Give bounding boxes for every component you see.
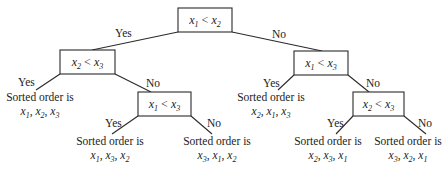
edge-right-yes	[278, 75, 294, 90]
decision-node-left: x2 < x3	[60, 50, 115, 74]
leaf-title: Sorted order is	[237, 91, 305, 103]
leaf-order: x1, x2, x3	[20, 105, 60, 120]
label-right-no: No	[366, 77, 380, 89]
decision-node-left-no: x1 < x3	[138, 92, 191, 116]
label-right-yes: Yes	[263, 77, 280, 89]
leaf-node: Sorted order is x2, x3, x1	[294, 135, 362, 164]
label-root-yes: Yes	[115, 27, 132, 39]
label-root-no: No	[272, 28, 286, 40]
node-left-label: x2 < x3	[71, 55, 103, 71]
leaf-title: Sorted order is	[76, 135, 144, 147]
leaf-title: Sorted order is	[6, 91, 74, 103]
node-root-label: x1 < x2	[188, 13, 220, 29]
decision-node-root: x1 < x2	[178, 8, 232, 32]
decision-node-right: x1 < x3	[294, 51, 348, 75]
leaf-order: x1, x3, x2	[90, 149, 130, 164]
label-left-yes: Yes	[18, 76, 35, 88]
label-leftno-no: No	[207, 117, 221, 129]
leaf-node: Sorted order is x1, x2, x3	[6, 91, 74, 120]
label-left-no: No	[146, 77, 160, 89]
node-left-no-label: x1 < x3	[148, 97, 180, 113]
leaf-title: Sorted order is	[294, 135, 362, 147]
leaf-title: Sorted order is	[183, 135, 251, 147]
label-leftno-yes: Yes	[105, 117, 122, 129]
leaf-node: Sorted order is x1, x3, x2	[76, 135, 144, 164]
node-right-label: x1 < x3	[304, 56, 336, 72]
decision-tree-diagram: Yes No Yes No Yes No Yes No Yes No x1 < …	[0, 0, 444, 170]
leaf-order: x3, x1, x2	[197, 149, 237, 164]
decision-node-right-no: x2 < x3	[353, 92, 404, 116]
edge-root-yes	[92, 32, 178, 50]
label-rightno-no: No	[418, 117, 432, 129]
leaf-node: Sorted order is x3, x2, x1	[374, 135, 442, 164]
edge-left-yes	[36, 74, 60, 90]
label-rightno-yes: Yes	[327, 117, 344, 129]
leaf-title: Sorted order is	[374, 135, 442, 147]
leaf-node: Sorted order is x3, x1, x2	[183, 135, 251, 164]
leaf-order: x2, x1, x3	[251, 105, 291, 120]
leaf-order: x3, x2, x1	[388, 149, 428, 164]
node-right-no-label: x2 < x3	[362, 97, 394, 113]
leaf-node: Sorted order is x2, x1, x3	[237, 91, 305, 120]
leaf-order: x2, x3, x1	[308, 149, 348, 164]
